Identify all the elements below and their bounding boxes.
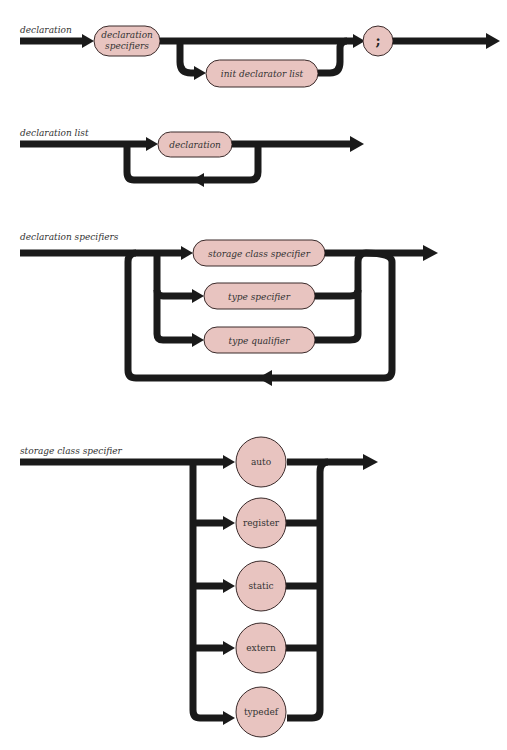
arrow-icon xyxy=(181,246,193,260)
node-label: register xyxy=(243,518,280,528)
arrow-icon xyxy=(223,711,235,725)
arrow-icon xyxy=(363,454,378,470)
arrow-icon xyxy=(146,137,158,151)
arrow-icon xyxy=(192,173,204,187)
diagram-storage-class-specifier: storage class specifier auto register st… xyxy=(20,437,378,737)
node-label: type specifier xyxy=(228,292,291,302)
node-label: ; xyxy=(375,33,380,49)
track-left-spine xyxy=(193,462,225,718)
track-rejoin xyxy=(318,41,347,73)
track-right-spine xyxy=(287,462,328,718)
diagram-title-storage-class-specifier: storage class specifier xyxy=(20,446,123,456)
arrow-icon xyxy=(223,455,235,469)
node-label: static xyxy=(248,581,273,591)
diagram-title-declaration: declaration xyxy=(20,25,72,35)
node-label: init declarator list xyxy=(221,69,304,79)
arrow-icon xyxy=(82,34,94,48)
arrow-icon xyxy=(423,245,438,261)
node-label: declaration xyxy=(101,30,153,40)
node-label: extern xyxy=(246,643,276,653)
diagram-title-declaration-specifiers: declaration specifiers xyxy=(20,232,119,242)
diagram-declaration-list: declaration list declaration xyxy=(20,128,364,187)
node-label: specifiers xyxy=(105,41,149,51)
node-label: typedef xyxy=(244,707,279,717)
node-label: declaration xyxy=(169,140,221,150)
diagram-declaration-specifiers: declaration specifiers storage class spe… xyxy=(20,232,438,386)
syntax-diagram-page: declaration declaration specifiers init … xyxy=(0,0,507,750)
node-label: type qualifier xyxy=(229,336,291,346)
diagram-title-declaration-list: declaration list xyxy=(20,128,89,138)
arrow-icon xyxy=(486,33,500,49)
arrow-icon xyxy=(192,289,204,303)
node-label: storage class specifier xyxy=(208,249,311,259)
track-branch xyxy=(180,41,196,73)
arrow-icon xyxy=(223,579,235,593)
track-repeat-loop xyxy=(128,253,392,378)
arrow-icon xyxy=(223,641,235,655)
node-label: auto xyxy=(251,457,271,467)
arrow-icon xyxy=(194,66,206,80)
arrow-icon xyxy=(350,136,364,152)
diagram-declaration: declaration declaration specifiers init … xyxy=(20,25,500,87)
arrow-icon xyxy=(258,370,272,386)
track-branch-type-specifier xyxy=(157,253,192,296)
arrow-icon xyxy=(223,516,235,530)
arrow-icon xyxy=(192,333,204,347)
